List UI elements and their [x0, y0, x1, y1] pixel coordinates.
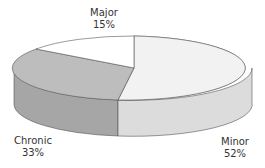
- label-minor-name: Minor: [210, 136, 260, 148]
- label-chronic: Chronic 33%: [8, 135, 58, 159]
- label-chronic-pct: 33%: [8, 147, 58, 159]
- label-major-name: Major: [79, 7, 129, 19]
- label-major-pct: 15%: [79, 19, 129, 31]
- label-major: Major 15%: [79, 7, 129, 31]
- label-minor-pct: 52%: [210, 148, 260, 160]
- label-minor: Minor 52%: [210, 136, 260, 160]
- label-chronic-name: Chronic: [8, 135, 58, 147]
